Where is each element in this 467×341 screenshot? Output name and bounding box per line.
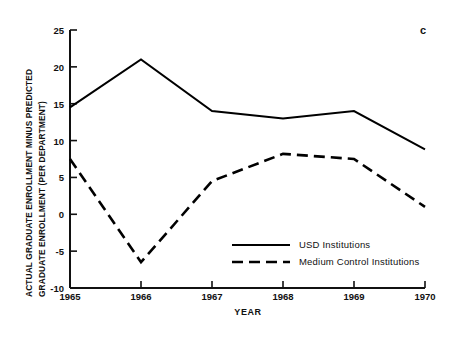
chart-figure: c ACTUAL GRADUATE ENROLLMENT MINUS PREDI… [0, 0, 467, 341]
legend-item-series-0: USD Institutions [232, 236, 420, 253]
plot-area [0, 0, 467, 341]
series-line-0 [70, 59, 425, 149]
legend: USD Institutions Medium Control Institut… [232, 236, 420, 270]
legend-label-series-1: Medium Control Institutions [299, 256, 420, 267]
legend-swatch-dashed [232, 257, 290, 267]
data-series-group [70, 59, 425, 262]
legend-item-series-1: Medium Control Institutions [232, 253, 420, 270]
legend-label-series-0: USD Institutions [299, 239, 370, 250]
legend-swatch-solid [232, 240, 290, 250]
